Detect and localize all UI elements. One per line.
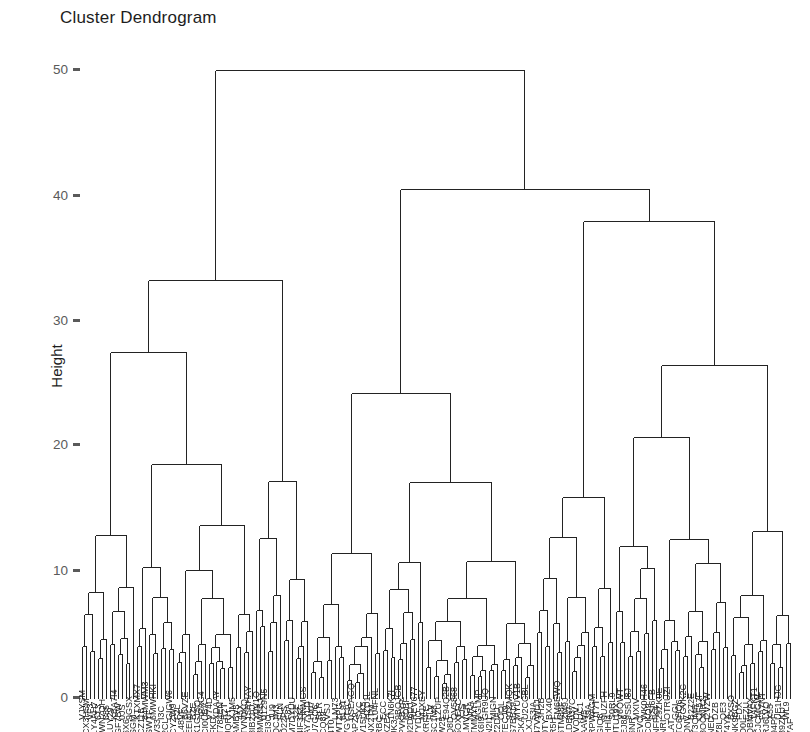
dendrogram-plot: Cluster Dendrogram Height 50 40 30 20 10…	[0, 0, 810, 732]
y-tick-label-20: 20	[32, 437, 68, 452]
dendrogram-tree	[0, 0, 810, 732]
y-tick-mark-50	[73, 68, 80, 71]
y-tick-label-40: 40	[32, 188, 68, 203]
y-tick-mark-0	[73, 696, 80, 699]
y-tick-mark-40	[73, 194, 80, 197]
y-tick-mark-10	[73, 569, 80, 572]
y-tick-label-30: 30	[32, 313, 68, 328]
y-tick-mark-30	[73, 319, 80, 322]
y-tick-label-0: 0	[32, 690, 68, 705]
y-tick-label-50: 50	[32, 62, 68, 77]
y-tick-label-10: 10	[32, 563, 68, 578]
dendrogram-branches	[83, 71, 791, 699]
page-title: Cluster Dendrogram	[60, 8, 217, 28]
y-tick-mark-20	[73, 443, 80, 446]
